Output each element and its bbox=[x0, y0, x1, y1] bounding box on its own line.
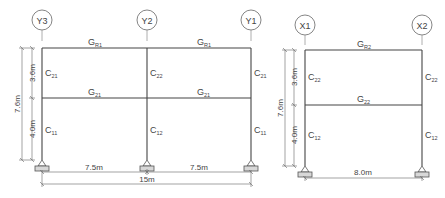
column-label-lower-y2: C12 bbox=[150, 125, 163, 136]
support-y3 bbox=[35, 160, 49, 171]
axis-bubble-x2: X2 bbox=[412, 15, 432, 45]
beam-label-floor-right-frame: G22 bbox=[357, 94, 370, 105]
axis-bubble-x1: X1 bbox=[295, 15, 315, 45]
column-label-lower-x1: C12 bbox=[308, 130, 321, 141]
support-y1 bbox=[244, 160, 258, 171]
dim-upper-height-left: 3.6m bbox=[28, 64, 37, 82]
dim-lower-height-left: 4.0m bbox=[28, 120, 37, 138]
column-label-lower-x2: C12 bbox=[425, 130, 438, 141]
column-label-upper-x1: C22 bbox=[308, 72, 321, 83]
axis-label-x1: X1 bbox=[299, 21, 310, 31]
left-frame: Y3 Y2 Y1 GR1 GR1 G21 G21 C21 C22 C21 bbox=[13, 10, 267, 187]
column-label-lower-y3: C11 bbox=[45, 125, 57, 136]
beam-label-roof-right-frame: GR2 bbox=[357, 39, 371, 50]
support-x2 bbox=[415, 166, 429, 177]
dim-lower-height-right: 4.0m bbox=[290, 126, 299, 144]
axis-label-x2: X2 bbox=[416, 21, 427, 31]
column-label-upper-y3: C21 bbox=[45, 68, 58, 79]
beam-label-floor-left: G21 bbox=[88, 87, 101, 98]
axis-bubble-y2: Y2 bbox=[137, 10, 157, 41]
axis-bubble-y1: Y1 bbox=[241, 10, 261, 41]
beam-label-roof-left: GR1 bbox=[88, 37, 102, 48]
right-frame: X1 X2 GR2 G22 C22 C22 C12 C12 3.6m 4.0m … bbox=[276, 15, 438, 181]
axis-label-y3: Y3 bbox=[36, 16, 47, 26]
support-x1 bbox=[298, 166, 312, 177]
dim-total-width: 15m bbox=[139, 175, 155, 184]
dim-total-height-right: 7.6m bbox=[276, 99, 285, 117]
column-label-lower-y1: C11 bbox=[254, 125, 266, 136]
dim-upper-height-right: 3.6m bbox=[290, 68, 299, 86]
axis-label-y1: Y1 bbox=[245, 16, 256, 26]
column-label-upper-y1: C21 bbox=[254, 68, 267, 79]
axis-label-y2: Y2 bbox=[141, 16, 152, 26]
axis-bubble-y3: Y3 bbox=[32, 10, 52, 41]
dim-total-height-left: 7.6m bbox=[13, 95, 22, 113]
frame-diagram: Y3 Y2 Y1 GR1 GR1 G21 G21 C21 C22 C21 bbox=[0, 0, 445, 198]
dim-bay1: 7.5m bbox=[85, 163, 103, 172]
column-label-upper-y2: C22 bbox=[150, 68, 163, 79]
column-label-upper-x2: C22 bbox=[425, 72, 438, 83]
dim-bay2: 7.5m bbox=[190, 163, 208, 172]
beam-label-roof-right: GR1 bbox=[197, 37, 211, 48]
beam-label-floor-right: G21 bbox=[197, 87, 210, 98]
dim-span: 8.0m bbox=[354, 168, 372, 177]
